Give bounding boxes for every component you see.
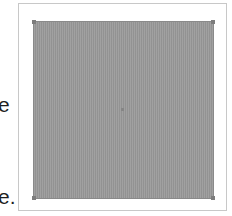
center-marker-icon: [121, 108, 124, 111]
resize-handle-bottom-right[interactable]: [211, 196, 215, 200]
resize-handle-top-right[interactable]: [211, 20, 215, 24]
resize-handle-top-left[interactable]: [32, 20, 36, 24]
resize-handle-bottom-left[interactable]: [32, 196, 36, 200]
body-text-fragment: e.: [0, 186, 16, 207]
body-text-fragment: e: [0, 94, 10, 115]
document-canvas: e e.: [0, 0, 232, 216]
